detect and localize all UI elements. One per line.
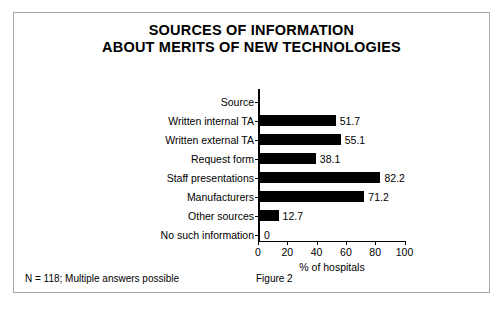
bar (260, 134, 341, 145)
bar-row: Source (14, 93, 491, 112)
bar (260, 115, 336, 126)
x-axis-tick (346, 242, 347, 245)
y-axis-tick (255, 178, 258, 179)
figure-footer: N = 118; Multiple answers possible Figur… (14, 272, 491, 288)
bar-chart-plot-area: SourceWritten internal TA51.7Written ext… (14, 13, 491, 294)
y-axis-tick (255, 216, 258, 217)
bar-value-label: 12.7 (283, 210, 303, 222)
bar-value-label: 0 (264, 229, 270, 241)
category-label: Other sources (188, 210, 254, 222)
bar (260, 191, 364, 202)
y-axis-tick (255, 121, 258, 122)
category-label: Manufacturers (187, 191, 254, 203)
bar (260, 153, 316, 164)
y-axis-tick (255, 159, 258, 160)
category-label: Staff presentations (167, 172, 254, 184)
category-label: Request form (191, 153, 254, 165)
category-label: Written internal TA (168, 115, 254, 127)
bar-value-label: 82.2 (384, 172, 404, 184)
y-axis-tick (255, 140, 258, 141)
bar-row: Written external TA55.1 (14, 131, 491, 150)
bar-row: Staff presentations82.2 (14, 169, 491, 188)
category-label: Written external TA (165, 134, 254, 146)
x-axis-tick (375, 242, 376, 245)
y-axis-tick (255, 197, 258, 198)
x-axis-tick-label: 100 (385, 246, 425, 258)
category-label: Source (221, 96, 254, 108)
category-label: No such information (161, 229, 254, 241)
footer-sample-note: N = 118; Multiple answers possible (25, 272, 179, 285)
bar-value-label: 38.1 (320, 153, 340, 165)
bar-value-label: 71.2 (368, 191, 388, 203)
figure-number-label: Figure 2 (256, 272, 293, 285)
bar-row: Other sources12.7 (14, 207, 491, 226)
bar (260, 172, 380, 183)
bar-row: Written internal TA51.7 (14, 112, 491, 131)
x-axis-tick (317, 242, 318, 245)
x-axis-tick (258, 242, 259, 245)
bar (260, 210, 279, 221)
bar-value-label: 55.1 (345, 134, 365, 146)
bar-row: Request form38.1 (14, 150, 491, 169)
x-axis-tick (405, 242, 406, 245)
y-axis-tick (255, 235, 258, 236)
bar-row: Manufacturers71.2 (14, 188, 491, 207)
figure-frame: SOURCES OF INFORMATION ABOUT MERITS OF N… (13, 12, 490, 293)
bar-row: No such information0 (14, 226, 491, 245)
y-axis-tick (255, 102, 258, 103)
bar-value-label: 51.7 (340, 115, 360, 127)
x-axis-tick (287, 242, 288, 245)
